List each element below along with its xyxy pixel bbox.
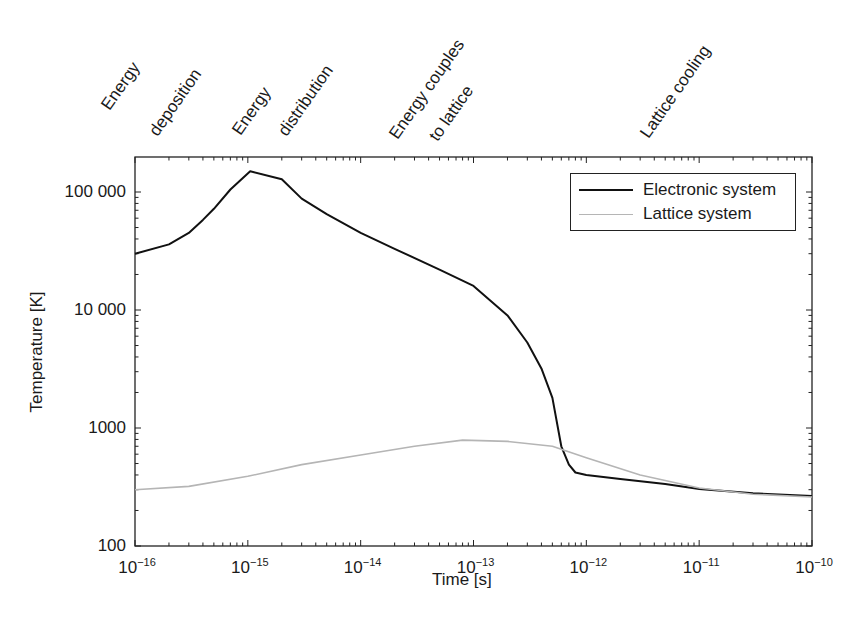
legend-swatch-electronic <box>579 189 633 191</box>
y-tick-label: 1000 <box>16 418 126 438</box>
y-tick-label: 100 <box>16 536 126 556</box>
x-tick-label: 10−15 <box>220 556 280 578</box>
legend-item-electronic: Electronic system <box>571 179 776 201</box>
legend: Electronic system Lattice system <box>570 173 796 231</box>
x-tick-label: 10−16 <box>107 556 167 578</box>
y-axis-label: Temperature [K] <box>27 287 47 417</box>
x-tick-label: 10−12 <box>558 556 618 578</box>
y-tick-label: 100 000 <box>16 182 126 202</box>
legend-label: Lattice system <box>643 204 752 224</box>
x-axis-label: Time [s] <box>432 570 492 590</box>
x-tick-label: 10−11 <box>671 556 731 578</box>
legend-swatch-lattice <box>579 214 633 215</box>
legend-item-lattice: Lattice system <box>571 203 752 225</box>
lattice-system-line <box>135 440 812 497</box>
x-tick-label: 10−14 <box>333 556 393 578</box>
legend-label: Electronic system <box>643 180 776 200</box>
x-tick-label: 10−10 <box>784 556 844 578</box>
